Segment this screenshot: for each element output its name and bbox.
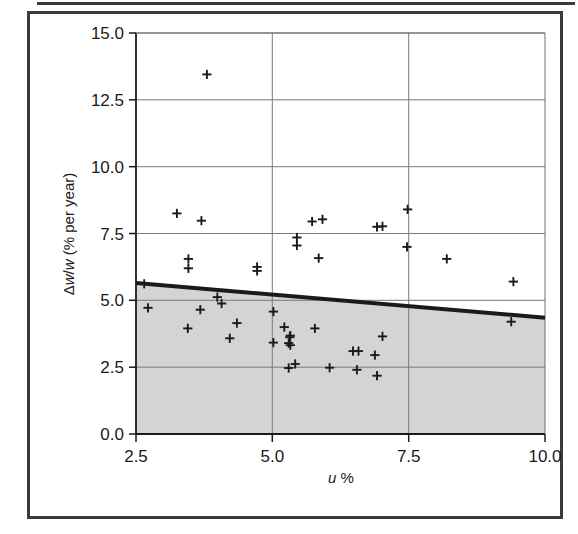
y-tick-label: 7.5: [100, 225, 124, 244]
y-tick-label: 10.0: [91, 158, 124, 177]
data-point: [184, 254, 193, 263]
y-tick-label: 5.0: [100, 291, 124, 310]
data-point: [292, 241, 301, 250]
svg-text:Δw/w (% per year): Δw/w (% per year): [60, 173, 77, 296]
data-point: [197, 216, 206, 225]
y-tick-label: 0.0: [100, 425, 124, 444]
data-point: [184, 264, 193, 273]
y-tick-label: 12.5: [91, 91, 124, 110]
data-point: [202, 70, 211, 79]
data-point: [314, 254, 323, 263]
y-axis-tick-labels: 0.02.55.07.510.012.515.0: [91, 24, 124, 444]
x-axis-title: u %: [328, 469, 354, 486]
x-tick-label: 7.5: [397, 447, 421, 466]
data-point: [509, 277, 518, 286]
figure-page: 0.02.55.07.510.012.515.0 2.55.07.510.0 Δ…: [0, 0, 578, 534]
scatter-chart: 0.02.55.07.510.012.515.0 2.55.07.510.0 Δ…: [0, 0, 578, 534]
x-axis-tick-labels: 2.55.07.510.0: [124, 447, 561, 466]
svg-text:u %: u %: [328, 469, 354, 486]
y-axis-tick-marks: [129, 33, 136, 434]
x-tick-label: 10.0: [528, 447, 561, 466]
shaded-region: [136, 283, 545, 434]
y-tick-label: 15.0: [91, 24, 124, 43]
data-point: [308, 217, 317, 226]
data-point: [403, 205, 412, 214]
x-axis-tick-marks: [136, 434, 545, 442]
x-tick-label: 2.5: [124, 447, 148, 466]
y-axis-title: Δw/w (% per year): [60, 173, 77, 296]
data-point: [378, 222, 387, 231]
data-point: [442, 254, 451, 263]
data-point: [318, 215, 327, 224]
data-point: [172, 209, 181, 218]
data-point: [292, 233, 301, 242]
y-tick-label: 2.5: [100, 358, 124, 377]
x-tick-label: 5.0: [260, 447, 284, 466]
data-point: [402, 242, 411, 251]
